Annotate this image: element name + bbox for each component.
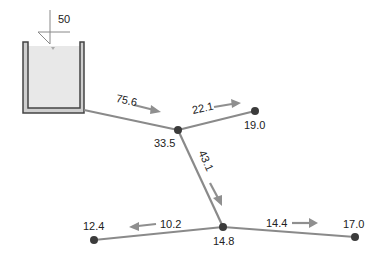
pipe-reservoir-A — [84, 110, 178, 130]
arrow-right-icon — [214, 99, 241, 108]
node-label-D: 12.4 — [83, 220, 104, 232]
node-label-B: 19.0 — [244, 119, 265, 131]
water-level-marker-icon — [38, 32, 50, 44]
arrow-left-icon — [129, 222, 156, 231]
node-E — [351, 233, 359, 241]
pipe-C-D — [94, 227, 223, 240]
reservoir: 50 — [23, 10, 84, 113]
node-label-A: 33.5 — [154, 137, 175, 149]
node-A — [174, 126, 182, 134]
flow-label-A-B: 22.1 — [191, 100, 214, 116]
arrow-right-icon — [292, 218, 318, 228]
reservoir-water — [28, 46, 80, 108]
pipe-network-diagram: 50 75.6 22.1 43.1 10.2 14.4 33.5 19.0 14… — [0, 0, 384, 263]
flow-label-A-C: 43.1 — [196, 148, 216, 172]
pipe-C-E — [223, 227, 355, 237]
pipe-A-C — [178, 130, 223, 227]
flow-label-reservoir-A: 75.6 — [115, 92, 138, 108]
node-C — [219, 223, 227, 231]
node-B — [251, 107, 259, 115]
inflow-label: 50 — [58, 13, 70, 25]
node-label-E: 17.0 — [343, 218, 364, 230]
node-label-C: 14.8 — [213, 235, 234, 247]
flow-label-C-E: 14.4 — [266, 217, 287, 229]
arrow-right-icon — [134, 105, 161, 114]
flow-label-C-D: 10.2 — [160, 218, 181, 230]
node-D — [90, 236, 98, 244]
